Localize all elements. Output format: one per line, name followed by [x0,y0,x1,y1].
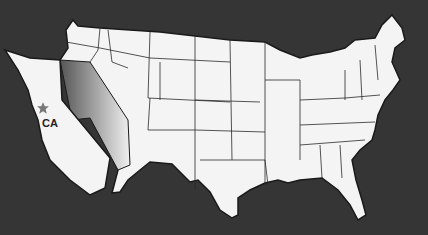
us-map: CA [0,0,428,235]
map-graphic [0,0,428,235]
star-icon [36,101,50,115]
state-label-ca: CA [42,117,58,129]
